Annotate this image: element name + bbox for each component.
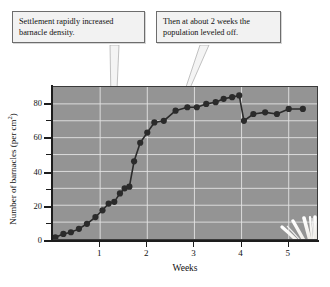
barnacle-population-figure: Settlement rapidly increased barnacle de…	[0, 0, 330, 287]
annotation-plateau-line1: Then at about 2 weeks the	[163, 16, 275, 27]
y-tick-label-0: 0	[20, 235, 42, 245]
x-tick-label-2: 2	[144, 248, 149, 258]
x-tick-4	[241, 242, 242, 247]
x-tick-label-3: 3	[191, 248, 196, 258]
y-tick-label-20: 20	[20, 201, 42, 211]
y-tick-minor-30	[46, 189, 51, 190]
y-axis-title-text: Number of barnacles (per cm	[8, 119, 18, 224]
barnacle-illustration	[268, 213, 318, 240]
y-tick-minor-50	[46, 154, 51, 155]
x-tick-label-1: 1	[97, 248, 102, 258]
x-tick-label-5: 5	[285, 248, 290, 258]
y-tick-minor-10	[46, 223, 51, 224]
x-tick-1	[99, 242, 100, 247]
y-axis-ticks: 020406080	[22, 86, 51, 241]
annotation-callout-settlement: Settlement rapidly increased barnacle de…	[12, 11, 145, 43]
y-tick-minor-70	[46, 120, 51, 121]
y-axis-line	[51, 85, 53, 242]
y-tick-40	[44, 172, 51, 174]
y-tick-20	[44, 206, 51, 208]
annotation-callout-plateau: Then at about 2 weeks the population lev…	[156, 11, 281, 43]
y-axis-title-exponent: 2	[6, 116, 13, 119]
annotation-plateau-line2: population leveled off.	[163, 27, 275, 38]
annotation-settlement-line2: barnacle density.	[19, 27, 139, 38]
x-tick-3	[193, 242, 194, 247]
y-tick-60	[44, 137, 51, 139]
x-axis-ticks: 12345	[52, 242, 318, 264]
y-axis-title-suffix: )	[8, 113, 18, 116]
plot-area	[52, 86, 318, 240]
x-tick-2	[146, 242, 147, 247]
y-tick-80	[44, 103, 51, 105]
x-tick-5	[288, 242, 289, 247]
x-axis-title: Weeks	[52, 263, 318, 273]
y-tick-label-40: 40	[20, 167, 42, 177]
y-axis-title: Number of barnacles (per cm2)	[6, 94, 18, 244]
annotation-settlement-line1: Settlement rapidly increased	[19, 16, 139, 27]
x-tick-label-4: 4	[238, 248, 243, 258]
y-tick-label-60: 60	[20, 132, 42, 142]
y-tick-label-80: 80	[20, 98, 42, 108]
y-tick-0	[44, 240, 51, 242]
